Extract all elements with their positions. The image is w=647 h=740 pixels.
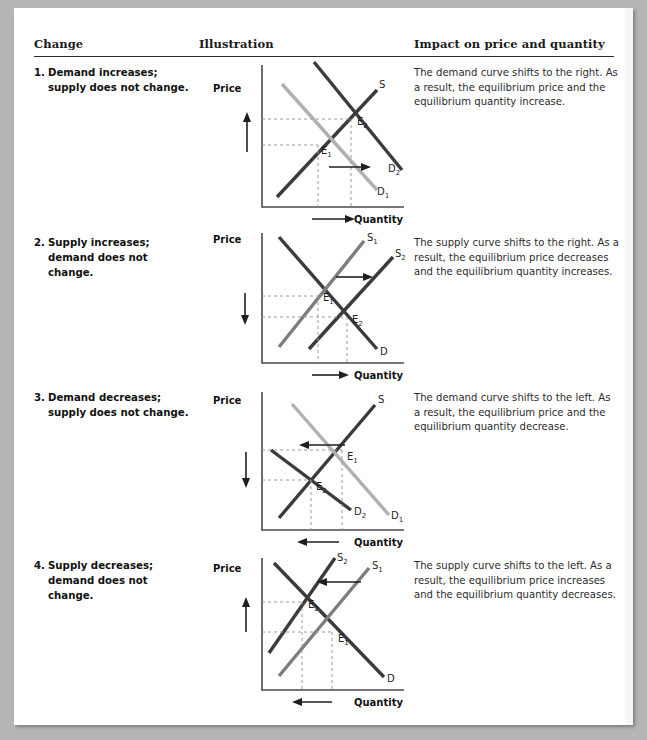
equilibrium-old-label: E1 bbox=[338, 633, 349, 647]
comparison-table: Change Illustration Impact on price and … bbox=[34, 30, 614, 710]
table-row: 2. Supply increases; demand does not cha… bbox=[34, 227, 614, 382]
change-text: Supply increases; demand does not change… bbox=[34, 235, 194, 281]
table-row: 4. Supply decreases; demand does not cha… bbox=[34, 550, 614, 710]
row-number: 3. bbox=[34, 390, 45, 405]
change-text: Supply decreases; demand does not change… bbox=[34, 558, 194, 604]
supply-curve-original bbox=[279, 241, 364, 347]
column-header-illustration: Illustration bbox=[199, 37, 274, 51]
column-header-impact: Impact on price and quantity bbox=[414, 37, 605, 51]
supply-demand-chart-2: Price Quantity S1 S2 D E1 E2 bbox=[199, 227, 414, 382]
supply-curve-label: S bbox=[378, 394, 384, 405]
equilibrium-new-label: E2 bbox=[352, 314, 363, 328]
equilibrium-new-label: E2 bbox=[308, 599, 319, 613]
axis-label-price: Price bbox=[213, 395, 242, 406]
equilibrium-old-label: E1 bbox=[347, 451, 358, 465]
demand-shifted-label: D2 bbox=[354, 506, 366, 520]
axis-label-quantity: Quantity bbox=[354, 214, 403, 225]
supply-original-label: S1 bbox=[372, 560, 383, 574]
change-cell: 3. Demand decreases; supply does not cha… bbox=[34, 390, 194, 420]
demand-curve-label: D bbox=[387, 673, 395, 684]
axis-label-quantity: Quantity bbox=[354, 697, 403, 708]
supply-curve-label: S bbox=[379, 79, 385, 90]
price-increase-arrow bbox=[242, 597, 250, 632]
illustration-cell-3: Price Quantity S D1 D2 E1 E2 bbox=[199, 382, 414, 550]
axis-label-price: Price bbox=[213, 563, 242, 574]
supply-curve bbox=[277, 90, 377, 197]
row-number: 1. bbox=[34, 65, 45, 80]
price-decrease-arrow bbox=[242, 452, 250, 488]
change-text: Demand decreases; supply does not change… bbox=[34, 390, 194, 420]
demand-curve-label: D bbox=[380, 346, 388, 357]
supply-original-label: S1 bbox=[367, 232, 378, 246]
impact-cell: The demand curve shifts to the right. As… bbox=[414, 66, 619, 110]
price-decrease-arrow bbox=[241, 293, 249, 325]
impact-cell: The supply curve shifts to the left. As … bbox=[414, 559, 619, 603]
row-number: 2. bbox=[34, 235, 45, 250]
axis-label-quantity: Quantity bbox=[354, 537, 403, 548]
equilibrium-old-label: E1 bbox=[321, 145, 332, 159]
change-cell: 4. Supply decreases; demand does not cha… bbox=[34, 558, 194, 604]
axis-label-price: Price bbox=[213, 83, 242, 94]
demand-original-label: D1 bbox=[391, 510, 403, 524]
impact-cell: The demand curve shifts to the left. As … bbox=[414, 391, 619, 435]
change-text: Demand increases; supply does not change… bbox=[34, 65, 194, 95]
supply-shifted-label: S2 bbox=[337, 552, 348, 566]
change-cell: 2. Supply increases; demand does not cha… bbox=[34, 235, 194, 281]
quantity-increase-arrow bbox=[312, 371, 349, 379]
table-header-row: Change Illustration Impact on price and … bbox=[34, 30, 614, 57]
axis-label-price: Price bbox=[213, 234, 242, 245]
impact-cell: The supply curve shifts to the right. As… bbox=[414, 236, 619, 280]
quantity-decrease-arrow bbox=[297, 538, 339, 546]
demand-curve-original bbox=[292, 404, 389, 515]
supply-shifted-label: S2 bbox=[395, 248, 406, 262]
illustration-cell-2: Price Quantity S1 S2 D E1 E2 bbox=[199, 227, 414, 382]
axis-label-quantity: Quantity bbox=[354, 370, 403, 381]
row-number: 4. bbox=[34, 558, 45, 573]
change-cell: 1. Demand increases; supply does not cha… bbox=[34, 65, 194, 95]
equilibrium-new-label: E2 bbox=[357, 116, 368, 130]
supply-shift-arrow bbox=[336, 273, 373, 281]
supply-demand-chart-1: Price Quantity S D1 D2 E1 E2 bbox=[199, 57, 414, 227]
demand-original-label: D1 bbox=[377, 186, 389, 200]
illustration-cell-1: Price Quantity S D1 D2 E1 E2 bbox=[199, 57, 414, 227]
supply-curve-shifted bbox=[309, 257, 393, 349]
price-increase-arrow bbox=[243, 112, 251, 152]
table-row: 1. Demand increases; supply does not cha… bbox=[34, 57, 614, 227]
equilibrium-new-label: E2 bbox=[316, 481, 327, 495]
demand-shift-arrow bbox=[329, 163, 371, 171]
table-row: 3. Demand decreases; supply does not cha… bbox=[34, 382, 614, 550]
page-sheet: Change Illustration Impact on price and … bbox=[14, 8, 633, 725]
quantity-decrease-arrow bbox=[292, 698, 332, 706]
supply-demand-chart-3: Price Quantity S D1 D2 E1 E2 bbox=[199, 382, 414, 550]
quantity-increase-arrow bbox=[312, 215, 355, 223]
supply-curve bbox=[279, 405, 375, 518]
equilibrium-old-label: E1 bbox=[323, 292, 334, 306]
column-header-change: Change bbox=[34, 37, 83, 51]
illustration-cell-4: Price Quantity S2 S1 D E2 E1 bbox=[199, 550, 414, 710]
supply-demand-chart-4: Price Quantity S2 S1 D E2 E1 bbox=[199, 550, 414, 710]
